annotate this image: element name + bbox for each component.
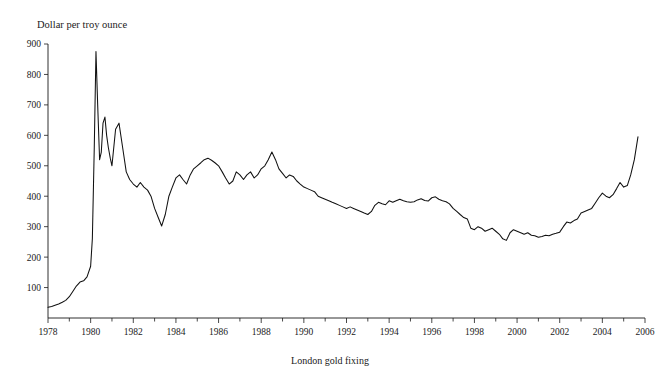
y-tick-label: 100 — [27, 283, 42, 293]
x-axis-caption: London gold fixing — [0, 355, 660, 366]
y-tick-label: 600 — [27, 131, 42, 141]
x-axis-ticks: 1978198019821984198619881990199219941996… — [39, 318, 655, 337]
chart-figure: CHART 3: Movement in Gold Prices Dollar … — [0, 0, 660, 381]
chart-plot-area: 100200300400500600700800900 197819801982… — [0, 0, 660, 381]
y-tick-label: 300 — [27, 222, 42, 232]
x-tick-label: 1986 — [209, 327, 228, 337]
y-tick-label: 200 — [27, 253, 42, 263]
x-tick-label: 2004 — [593, 327, 612, 337]
x-tick-label: 1980 — [81, 327, 100, 337]
y-tick-label: 500 — [27, 161, 42, 171]
data-series-line — [48, 52, 638, 308]
x-tick-label: 1982 — [124, 327, 143, 337]
x-tick-label: 1998 — [465, 327, 484, 337]
x-tick-label: 1988 — [252, 327, 271, 337]
y-tick-label: 400 — [27, 192, 42, 202]
y-tick-label: 700 — [27, 100, 42, 110]
x-tick-label: 1992 — [337, 327, 356, 337]
axis-lines — [48, 44, 645, 318]
y-tick-label: 800 — [27, 70, 42, 80]
x-tick-label: 2006 — [636, 327, 655, 337]
y-tick-label: 900 — [27, 39, 42, 49]
x-tick-label: 2000 — [508, 327, 527, 337]
x-tick-label: 1978 — [39, 327, 58, 337]
x-tick-label: 1984 — [166, 327, 185, 337]
x-tick-label: 2002 — [550, 327, 569, 337]
x-tick-label: 1994 — [380, 327, 399, 337]
x-tick-label: 1996 — [422, 327, 441, 337]
series-group — [48, 52, 638, 308]
y-axis-ticks: 100200300400500600700800900 — [27, 39, 48, 293]
x-tick-label: 1990 — [294, 327, 313, 337]
